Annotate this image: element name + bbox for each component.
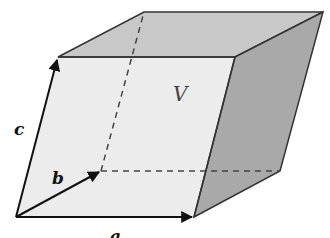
label-b: b (52, 168, 64, 188)
parallelepiped-diagram: a b c V (0, 0, 330, 238)
label-a: a (110, 226, 121, 238)
label-volume: V (173, 82, 190, 106)
label-c: c (14, 119, 25, 139)
